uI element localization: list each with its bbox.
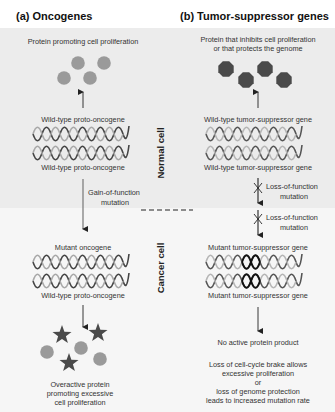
wild-type-proto-oncogene-bottom-label: Wild-type proto-oncogene bbox=[41, 163, 125, 172]
wild-type-proto-oncogene-top-label: Wild-type proto-oncogene bbox=[41, 115, 125, 124]
gain-of-function-label-line-1: Gain-of-function bbox=[88, 188, 140, 197]
mutant-suppressor-top-label: Mutant tumor-suppressor gene bbox=[208, 243, 308, 252]
oncogene-tumor-suppressor-diagram: (a) Oncogenes (b) Tumor-suppressor genes… bbox=[0, 0, 335, 412]
wild-type-proto-oncogene-lower-label: Wild-type proto-oncogene bbox=[41, 291, 125, 300]
mutant-suppressor-bottom-label: Mutant tumor-suppressor gene bbox=[208, 291, 308, 300]
normal-cell-label: Normal cell bbox=[155, 127, 166, 178]
loss-of-function-1-line-1: Loss-of-function bbox=[266, 182, 318, 191]
loss-of-function-2-line-1: Loss-of-function bbox=[266, 213, 318, 222]
suppressor-result-line-5: leads to increased mutation rate bbox=[206, 396, 310, 405]
suppressor-protein-label-line-2: or that protects the genome bbox=[213, 44, 302, 53]
panel-b-title: (b) Tumor-suppressor genes bbox=[180, 10, 329, 22]
loss-of-function-1-line-2: mutation bbox=[280, 192, 308, 201]
wild-type-suppressor-top-label: Wild-type tumor-suppressor gene bbox=[204, 115, 312, 124]
suppressor-result-line-3: or bbox=[255, 378, 262, 387]
overactive-protein-line-2: promoting excessive bbox=[47, 389, 114, 398]
suppressor-protein-label-line-1: Protein that inhibits cell proliferation bbox=[200, 35, 315, 44]
no-active-protein-label: No active protein product bbox=[217, 338, 298, 347]
suppressor-result-line-1: Loss of cell-cycle brake allows bbox=[209, 360, 307, 369]
wild-type-suppressor-bottom-label: Wild-type tumor-suppressor gene bbox=[204, 163, 312, 172]
overactive-protein-line-3: cell proliferation bbox=[54, 398, 105, 407]
loss-of-function-2-line-2: mutation bbox=[280, 223, 308, 232]
cancer-cell-label: Cancer cell bbox=[155, 243, 166, 294]
oncogene-protein-label: Protein promoting cell proliferation bbox=[28, 37, 139, 46]
panel-a-title: (a) Oncogenes bbox=[16, 10, 92, 22]
suppressor-result-line-4: loss of genome protection bbox=[216, 387, 300, 396]
suppressor-result-line-2: excessive proliferation bbox=[222, 369, 294, 378]
gain-of-function-label-line-2: mutation bbox=[101, 198, 129, 207]
mutant-oncogene-label: Mutant oncogene bbox=[55, 243, 111, 252]
overactive-protein-line-1: Overactive protein bbox=[50, 380, 109, 389]
